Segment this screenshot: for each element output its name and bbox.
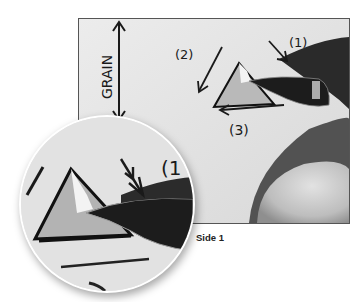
blade-reflection <box>312 81 320 99</box>
magnified-inset: (1 <box>19 115 195 293</box>
grain-label: GRAIN <box>99 55 115 99</box>
inset-step1-label: (1 <box>161 156 182 180</box>
step1-label: (1) <box>289 35 307 50</box>
figure-caption: Side 1 <box>196 232 224 243</box>
step2-label: (2) <box>175 47 193 62</box>
inset-scene: (1 <box>21 117 193 291</box>
step3-label: (3) <box>229 122 249 138</box>
